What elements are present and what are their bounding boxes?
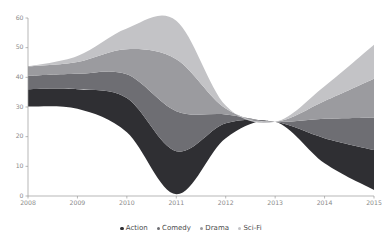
x-tick-label: 2010 [119,199,135,206]
legend-item-comedy[interactable]: Comedy [157,225,191,232]
legend-item-sci-fi[interactable]: Sci-Fi [238,225,262,232]
y-tick-label: 10 [16,162,24,169]
y-tick-label: 50 [16,43,24,50]
x-tick-label: 2011 [168,199,184,206]
y-tick-label: 60 [16,14,24,21]
legend-label: Action [126,225,148,232]
y-tick-label: 30 [16,103,24,110]
x-tick-label: 2014 [317,199,333,206]
legend-marker-icon [238,227,241,230]
chart-legend: ActionComedyDramaSci-Fi [0,225,382,232]
legend-label: Drama [205,225,229,232]
legend-marker-icon [157,227,160,230]
legend-marker-icon [200,227,203,230]
legend-marker-icon [120,227,123,230]
legend-item-action[interactable]: Action [120,225,147,232]
y-axis-tick-labels: 0102030405060 [16,14,24,199]
x-tick-label: 2008 [20,199,36,206]
x-tick-label: 2012 [218,199,234,206]
x-tick-label: 2013 [267,199,283,206]
x-tick-label: 2009 [70,199,86,206]
x-axis-tick-labels: 20082009201020112012201320142015 [20,199,382,206]
area-bands-group [28,16,374,195]
y-tick-label: 0 [20,192,24,199]
x-tick-label: 2015 [366,199,382,206]
stacked-area-chart: 0102030405060 20082009201020112012201320… [0,0,382,236]
y-tick-label: 20 [16,132,24,139]
chart-plot-area: 0102030405060 20082009201020112012201320… [0,0,382,236]
legend-item-drama[interactable]: Drama [200,225,229,232]
legend-label: Comedy [162,225,191,232]
legend-label: Sci-Fi [243,225,261,232]
y-tick-label: 40 [16,73,24,80]
